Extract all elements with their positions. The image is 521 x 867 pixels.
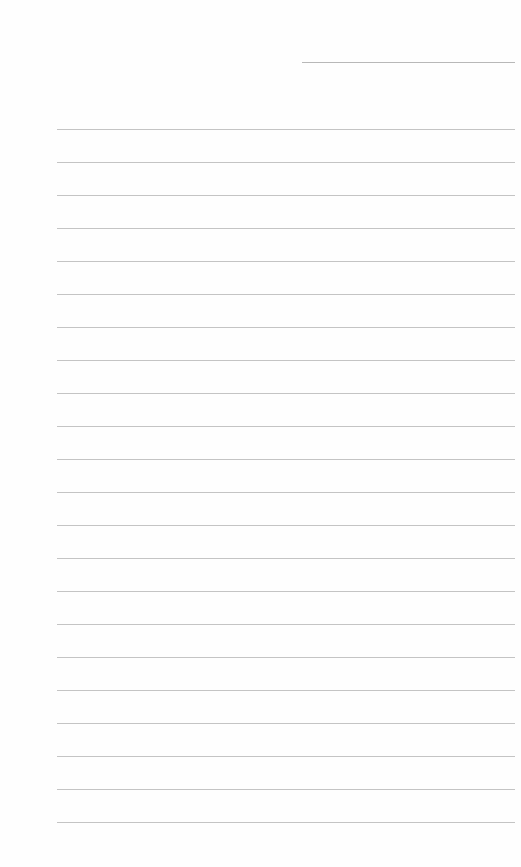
ruled-line	[57, 294, 515, 295]
ruled-line	[57, 789, 515, 790]
header-blank-line	[302, 62, 515, 63]
ruled-line	[57, 723, 515, 724]
ruled-line	[57, 756, 515, 757]
ruled-line	[57, 558, 515, 559]
ruled-line	[57, 822, 515, 823]
ruled-line	[57, 591, 515, 592]
ruled-line	[57, 459, 515, 460]
ruled-line	[57, 492, 515, 493]
ruled-line	[57, 393, 515, 394]
ruled-line	[57, 129, 515, 130]
ruled-line	[57, 360, 515, 361]
ruled-line	[57, 525, 515, 526]
ruled-line	[57, 261, 515, 262]
ruled-line	[57, 426, 515, 427]
lined-page	[0, 0, 521, 867]
ruled-line	[57, 162, 515, 163]
ruled-line	[57, 327, 515, 328]
ruled-line	[57, 690, 515, 691]
ruled-line	[57, 228, 515, 229]
ruled-line	[57, 657, 515, 658]
ruled-line	[57, 624, 515, 625]
ruled-line	[57, 195, 515, 196]
